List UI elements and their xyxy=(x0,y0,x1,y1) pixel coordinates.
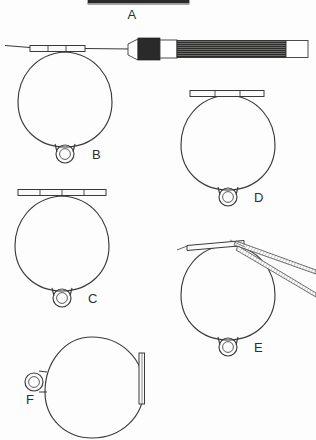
forceps xyxy=(230,240,316,297)
label-d: D xyxy=(254,190,264,205)
item-a-scale-bar xyxy=(88,0,189,4)
loop-d-eyelet-inner xyxy=(223,192,234,203)
loop-b-top-bar xyxy=(30,46,85,52)
handle-body xyxy=(177,41,286,58)
handle-taper xyxy=(128,39,138,60)
loop-b-eyelet-outer xyxy=(56,145,74,163)
figure-canvas: A B xyxy=(0,0,316,440)
loop-b-shaft-right xyxy=(85,49,131,50)
loop-f-rim xyxy=(45,337,144,438)
loop-e-bar-tail xyxy=(177,246,187,250)
label-a: A xyxy=(127,7,136,22)
scale-bar-shadow xyxy=(88,3,189,4)
loop-b-shaft-left xyxy=(5,46,30,48)
loop-c-eyelet-outer xyxy=(53,289,71,307)
handle-ferrule xyxy=(138,38,160,60)
label-e: E xyxy=(254,340,263,355)
label-c: C xyxy=(88,291,98,306)
loop-d-eyelet-outer xyxy=(219,188,237,206)
loop-e-eyelet-outer xyxy=(219,338,237,356)
item-f-loop xyxy=(25,337,145,438)
item-d-loop xyxy=(181,91,275,207)
loop-e-rim xyxy=(181,245,275,340)
handle-band xyxy=(160,40,177,58)
instrument-handle xyxy=(128,38,308,60)
item-c-loop xyxy=(15,190,109,308)
forceps-lower-arm xyxy=(236,246,316,297)
label-f: F xyxy=(26,392,34,407)
loop-f-eyelet-inner xyxy=(29,377,40,388)
loop-b-rim xyxy=(18,52,112,147)
loop-d-top-bar xyxy=(190,91,264,97)
label-b: B xyxy=(92,147,101,162)
item-e-loop xyxy=(177,241,275,357)
handle-end-cap xyxy=(286,41,308,58)
loop-f-eyelet-outer xyxy=(25,373,43,391)
loop-e-eyelet-inner xyxy=(223,342,234,353)
loop-c-eyelet-inner xyxy=(57,293,68,304)
item-b-loop xyxy=(5,46,131,164)
figure-plate: A B xyxy=(0,0,316,440)
loop-d-rim xyxy=(181,95,275,190)
loop-b-eyelet-inner xyxy=(60,149,71,160)
loop-c-rim xyxy=(15,196,109,291)
